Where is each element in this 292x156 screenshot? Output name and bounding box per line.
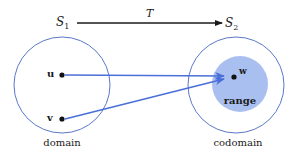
set-s1-label: S1 bbox=[56, 15, 69, 31]
arrow-v-to-w bbox=[65, 79, 224, 119]
mapping-arrow-T: S1 T S2 bbox=[56, 7, 238, 32]
point-v-dot bbox=[59, 116, 64, 121]
domain-set: u v domain bbox=[14, 37, 110, 148]
codomain-label: codomain bbox=[213, 137, 263, 148]
point-w-dot bbox=[231, 74, 236, 79]
point-w-label: w bbox=[238, 66, 247, 76]
point-u-label: u bbox=[47, 68, 54, 79]
arrow-u-to-w bbox=[65, 75, 224, 76]
point-u-dot bbox=[59, 72, 64, 77]
transformation-diagram: S1 T S2 u v domain w range codomain bbox=[0, 0, 292, 156]
codomain-set: w range codomain bbox=[188, 37, 284, 148]
range-label: range bbox=[224, 95, 256, 106]
domain-label: domain bbox=[43, 137, 81, 148]
point-v-label: v bbox=[46, 112, 54, 123]
map-label-T: T bbox=[146, 7, 155, 20]
set-s2-label: S2 bbox=[225, 16, 238, 32]
